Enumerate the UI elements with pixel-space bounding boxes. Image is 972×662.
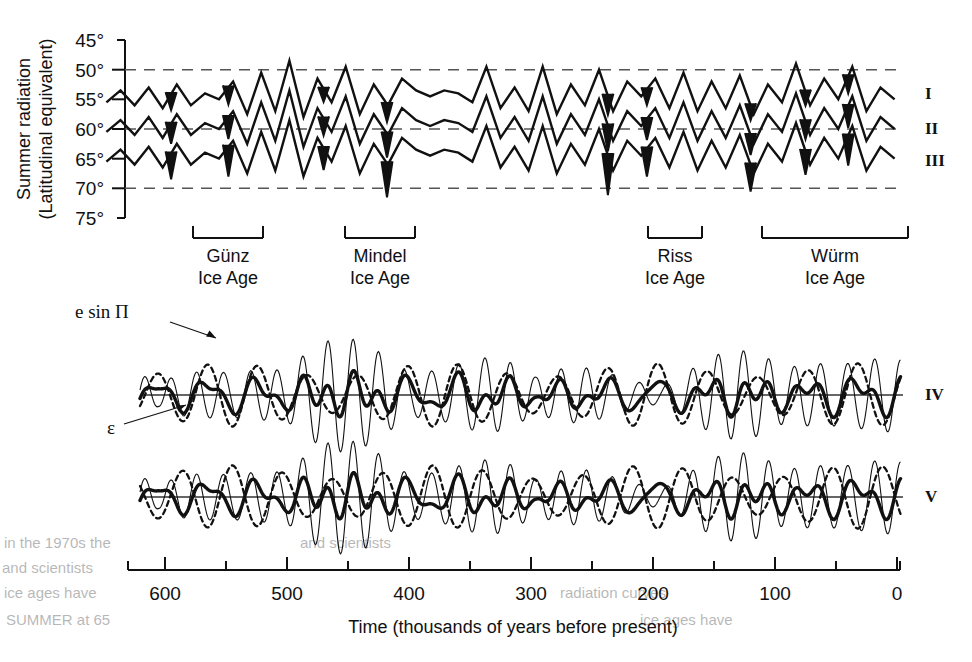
ice-age-name-mindel: Mindel [353,246,406,266]
y-tick-label: 65° [75,149,104,170]
y-tick-label: 70° [75,178,104,199]
annotation-precession-label: e sin Π [75,301,129,322]
x-axis-tick-labels: 600 500 400 300 200 100 0 [149,583,902,604]
y-tick-label: 60° [75,119,104,140]
y-axis-title-line2: (Latitudinal equivalent) [36,38,56,219]
top-panel-series-labels: I II III [925,84,945,170]
x-tick-label: 200 [637,583,669,604]
ice-age-sub-mindel: Ice Age [350,268,410,288]
arrowhead-icon [206,331,216,339]
ice-age-sub-wurm: Ice Age [805,268,865,288]
y-tick-label: 45° [75,30,104,51]
ice-age-sub-riss: Ice Age [645,268,705,288]
ice-age-labels: Günz Ice Age Mindel Ice Age Riss Ice Age… [198,246,865,288]
x-tick-label: 500 [271,583,303,604]
panel-IV: IV [140,339,945,452]
annotation-precession: e sin Π [75,301,216,338]
x-axis-title: Time (thousands of years before present) [348,617,678,637]
ice-age-name-wurm: Würm [811,246,859,266]
series-label-IV: IV [925,385,945,404]
x-tick-label: 0 [892,583,903,604]
ice-age-sub-gunz: Ice Age [198,268,258,288]
y-tick-label: 55° [75,89,104,110]
page-bleed-through: in the 1970s the and scientists ice ages… [2,534,733,628]
bleed-line: in the 1970s the [4,534,111,551]
panel-V: V [140,441,938,554]
figure-svg: in the 1970s the and scientists ice ages… [0,0,972,662]
x-tick-label: 600 [149,583,181,604]
bleed-line: ice ages have [4,584,97,601]
y-tick-label: 75° [75,208,104,229]
series-label-I: I [925,84,932,103]
ice-age-bracket-wurm [762,226,908,238]
bleed-line: and scientists [2,559,93,576]
x-axis-ticks [165,557,897,570]
y-axis-ticks [112,70,125,189]
x-tick-label: 300 [515,583,547,604]
ice-age-bracket-riss [648,226,702,238]
series-label-III: III [925,151,945,170]
y-axis-title-line1: Summer radiation [14,58,34,200]
y-tick-label: 50° [75,60,104,81]
ice-age-name-riss: Riss [658,246,693,266]
milankovitch-radiation-figure: in the 1970s the and scientists ice ages… [0,0,972,662]
x-axis: 600 500 400 300 200 100 0 Time (thousand… [128,557,902,637]
ice-age-bracket-gunz [193,226,263,238]
y-axis-title: Summer radiation (Latitudinal equivalent… [14,38,56,219]
annotation-obliquity: ε [107,405,186,438]
y-axis-tick-labels: 45° 50° 55° 60° 65° 70° 75° [75,30,104,229]
x-tick-label: 100 [759,583,791,604]
bleed-line: SUMMER at 65 [6,611,110,628]
ice-age-name-gunz: Günz [206,246,249,266]
ice-age-markers [193,226,908,238]
series-label-V: V [925,487,938,506]
series-label-II: II [925,119,939,138]
x-tick-label: 400 [393,583,425,604]
annotation-obliquity-label: ε [107,417,115,438]
ice-age-bracket-mindel [345,226,415,238]
